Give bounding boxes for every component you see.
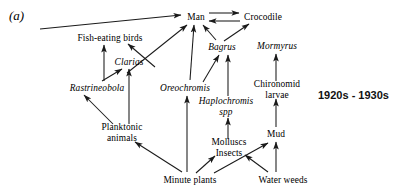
edge-oreochromis-to-bagrus [203,55,219,82]
node-haplochromis-spp: Haplochromisspp [193,96,259,117]
node-water-weeds: Water weeds [258,175,307,186]
node-minute-plants: Minute plants [163,175,216,186]
node-clarias: Clarias [115,57,144,68]
edge-minute-plants-to-planktonic [135,142,182,172]
node-oreochromis: Oreochromis [160,83,210,94]
era-label: 1920s - 1930s [318,89,389,101]
edge-oreochromis-to-man [190,25,194,80]
edge-bagrus-to-crocodile [224,24,249,41]
node-man: Man [187,12,205,23]
node-molluscs-insects: MolluscsInsects [196,137,262,158]
food-web-figure: (a) ManCrocodileFish-eating birdsBagrusM… [0,0,408,194]
node-planktonic-animals: Planktonicanimals [89,122,155,143]
edge-rastrineobola-to-clarias [102,69,122,81]
node-rastrineobola: Rastrineobola [70,83,124,94]
node-crocodile: Crocodile [244,12,282,23]
edge-planktonic-to-rastrineobola [84,95,113,124]
edge-bagrus-to-man [203,25,216,40]
node-fish-eating-birds: Fish-eating birds [78,33,143,44]
node-mud: Mud [267,129,285,140]
node-mormyrus: Mormyrus [257,41,297,52]
node-bagrus: Bagrus [208,42,236,53]
edge-fish-eating-birds-to-man [40,15,181,29]
